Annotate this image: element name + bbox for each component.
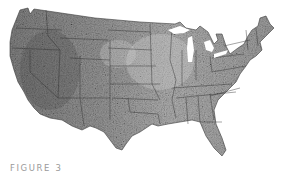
land-fill [0, 0, 288, 170]
us-map-svg [0, 0, 288, 170]
figure-caption: FIGURE 3 [10, 163, 62, 173]
us-map [0, 0, 288, 170]
